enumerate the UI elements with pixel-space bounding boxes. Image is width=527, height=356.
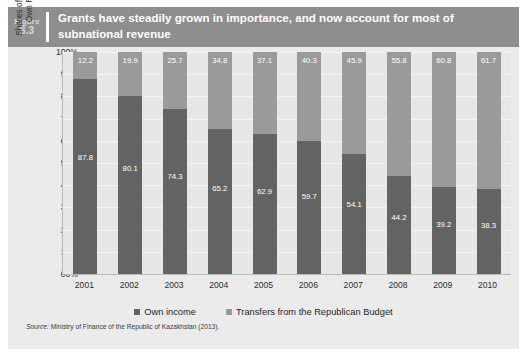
bar-segment-transfers[interactable]: 60.8: [432, 52, 456, 187]
bar-value-label-own-income: 54.1: [347, 200, 362, 209]
x-axis-tick: 2004: [207, 276, 231, 290]
bar-value-label-own-income: 65.2: [212, 184, 227, 193]
bar-column[interactable]: 12.287.8: [73, 52, 97, 274]
x-axis-tick: 2002: [117, 276, 141, 290]
figure-header-band: Figure 8.3 Grants have steadily grown in…: [8, 7, 519, 47]
bar-value-label-own-income: 44.2: [391, 213, 406, 222]
x-axis-tick: 2008: [386, 276, 410, 290]
bars-layer: 12.287.819.980.125.774.334.865.237.162.9…: [63, 52, 511, 274]
bar-segment-transfers[interactable]: 55.8: [387, 52, 411, 176]
x-axis-tick: 2010: [476, 276, 500, 290]
x-axis-tick-labels: 2001200220032004200520062007200820092010: [62, 276, 510, 294]
bar-column[interactable]: 55.844.2: [387, 52, 411, 274]
bar-segment-own-income[interactable]: 38.3: [477, 189, 501, 274]
bar-value-label-transfers: 25.7: [167, 56, 182, 65]
figure-container: Figure 8.3 Grants have steadily grown in…: [0, 0, 527, 356]
bar-segment-transfers[interactable]: 19.9: [118, 52, 142, 96]
bar-segment-transfers[interactable]: 40.3: [297, 52, 321, 141]
bar-value-label-transfers: 37.1: [257, 56, 272, 65]
chart-area: Shares of Sub-national Government Own Re…: [8, 52, 519, 294]
x-axis-tick: 2006: [296, 276, 320, 290]
bar-segment-own-income[interactable]: 65.2: [208, 129, 232, 274]
bar-segment-own-income[interactable]: 87.8: [73, 79, 97, 274]
legend-swatch-icon-own-income: [134, 309, 140, 315]
bar-value-label-own-income: 39.2: [436, 220, 451, 229]
bar-column[interactable]: 37.162.9: [253, 52, 277, 274]
bar-value-label-transfers: 19.9: [123, 56, 138, 65]
bar-segment-transfers[interactable]: 61.7: [477, 52, 501, 189]
bar-segment-own-income[interactable]: 62.9: [253, 134, 277, 274]
bar-segment-transfers[interactable]: 45.9: [342, 52, 366, 154]
bar-value-label-own-income: 59.7: [302, 192, 317, 201]
bar-column[interactable]: 25.774.3: [163, 52, 187, 274]
bar-value-label-transfers: 40.3: [302, 56, 317, 65]
x-axis-tick: 2009: [431, 276, 455, 290]
bar-segment-transfers[interactable]: 34.8: [208, 52, 232, 129]
x-axis-tick: 2005: [252, 276, 276, 290]
legend-label-transfers: Transfers from the Republican Budget: [236, 307, 393, 317]
y-axis-title: Shares of Sub-national Government Own Re…: [10, 0, 38, 80]
bar-segment-own-income[interactable]: 44.2: [387, 176, 411, 274]
x-axis-tick: 2001: [72, 276, 96, 290]
bar-value-label-own-income: 38.3: [481, 221, 496, 230]
bar-segment-own-income[interactable]: 74.3: [163, 109, 187, 274]
bar-value-label-own-income: 74.3: [167, 172, 182, 181]
figure-body-panel: Shares of Sub-national Government Own Re…: [8, 47, 519, 349]
bar-value-label-transfers: 60.8: [436, 56, 451, 65]
bar-column[interactable]: 34.865.2: [208, 52, 232, 274]
bar-value-label-own-income: 62.9: [257, 187, 272, 196]
bar-value-label-own-income: 87.8: [78, 153, 93, 162]
legend-item-transfers: Transfers from the Republican Budget: [226, 307, 393, 317]
bar-value-label-own-income: 80.1: [123, 164, 138, 173]
figure-title: Grants have steadily grown in importance…: [49, 7, 519, 47]
bar-value-label-transfers: 61.7: [481, 56, 496, 65]
legend-swatch-icon-transfers: [226, 309, 232, 315]
bar-segment-own-income[interactable]: 59.7: [297, 141, 321, 274]
x-axis-tick: 2003: [162, 276, 186, 290]
source-note: Source: Ministry of Finance of the Repub…: [26, 323, 219, 330]
legend-label-own-income: Own income: [144, 307, 196, 317]
bar-column[interactable]: 40.359.7: [297, 52, 321, 274]
bar-segment-transfers[interactable]: 37.1: [253, 52, 277, 134]
bar-segment-transfers[interactable]: 25.7: [163, 52, 187, 109]
bar-column[interactable]: 61.738.3: [477, 52, 501, 274]
x-axis-tick: 2007: [341, 276, 365, 290]
bar-value-label-transfers: 34.8: [212, 56, 227, 65]
legend-item-own-income: Own income: [134, 307, 196, 317]
bar-column[interactable]: 60.839.2: [432, 52, 456, 274]
chart-legend: Own income Transfers from the Republican…: [8, 304, 519, 320]
bar-value-label-transfers: 45.9: [347, 56, 362, 65]
source-text: Ministry of Finance of the Republic of K…: [51, 323, 220, 330]
bar-column[interactable]: 19.980.1: [118, 52, 142, 274]
bar-segment-own-income[interactable]: 54.1: [342, 154, 366, 274]
bar-value-label-transfers: 55.8: [391, 56, 406, 65]
bar-segment-transfers[interactable]: 12.2: [73, 52, 97, 79]
plot-region: 12.287.819.980.125.774.334.865.237.162.9…: [62, 52, 511, 275]
bar-segment-own-income[interactable]: 39.2: [432, 187, 456, 274]
source-prefix: Source:: [26, 323, 49, 330]
bar-column[interactable]: 45.954.1: [342, 52, 366, 274]
bar-segment-own-income[interactable]: 80.1: [118, 96, 142, 274]
bar-value-label-transfers: 12.2: [78, 56, 93, 65]
